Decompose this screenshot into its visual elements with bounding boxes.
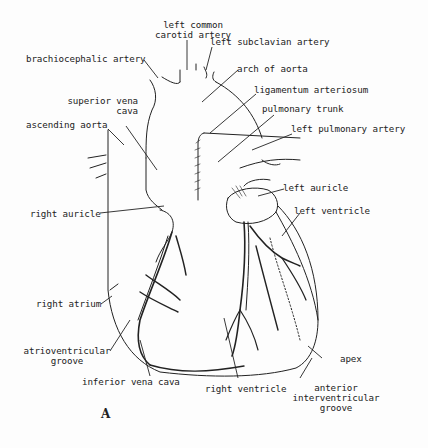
label-superior-vena-cava: superior vena cava	[66, 96, 138, 116]
label-left-pulmonary-artery: left pulmonary artery	[291, 124, 405, 134]
label-anterior-interventricular-groove: anterior interventricular groove	[292, 383, 380, 413]
label-pulmonary-trunk: pulmonary trunk	[262, 104, 343, 114]
label-left-ventricle: left ventricle	[294, 206, 370, 216]
label-right-auricle: right auricle	[30, 209, 101, 219]
label-left-subclavian-artery: left subclavian artery	[210, 37, 330, 47]
label-brachiocephalic-artery: brachiocephalic artery	[26, 54, 146, 64]
label-line: cava	[66, 106, 138, 116]
figure-panel-label: A	[101, 407, 110, 421]
label-inferior-vena-cava: inferior vena cava	[82, 377, 180, 387]
right-atrium-outline	[108, 130, 318, 376]
heart-illustration	[0, 0, 428, 448]
label-apex: apex	[340, 354, 362, 364]
label-atrioventricular-groove: atrioventricular groove	[22, 346, 112, 366]
label-ascending-aorta: ascending aorta	[26, 120, 107, 130]
label-right-atrium: right atrium	[36, 299, 101, 309]
label-ligamentum-arteriosum: ligamentum arteriosum	[254, 85, 368, 95]
label-right-ventricle: right ventricle	[205, 384, 286, 394]
label-line: groove	[292, 403, 380, 413]
label-left-auricle: left auricle	[283, 183, 348, 193]
label-arch-of-aorta: arch of aorta	[237, 64, 308, 74]
heart-diagram: left common carotid artery left subclavi…	[0, 0, 428, 448]
brachiocephalic-artery-outline	[146, 80, 156, 158]
left-auricle-outline	[226, 188, 277, 223]
label-line: groove	[22, 356, 112, 366]
